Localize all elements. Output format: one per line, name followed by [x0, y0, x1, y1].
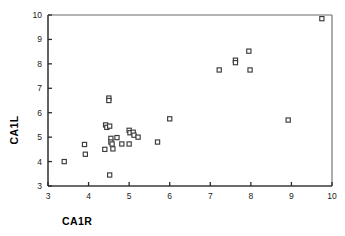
- data-point-marker: [136, 135, 140, 139]
- data-point-marker: [115, 136, 119, 140]
- data-point-series: [62, 17, 324, 178]
- data-point-marker: [233, 61, 237, 65]
- data-point-marker: [247, 49, 251, 53]
- data-point-marker: [108, 173, 112, 177]
- data-point-marker: [110, 142, 114, 146]
- y-tick-label: 4: [37, 157, 42, 167]
- data-point-marker: [103, 147, 107, 151]
- y-tick-label: 5: [37, 132, 42, 142]
- y-axis-title: CA1L: [8, 115, 20, 144]
- y-tick-label: 10: [33, 10, 43, 20]
- y-tick-label: 9: [37, 34, 42, 44]
- x-tick-label: 9: [289, 191, 294, 201]
- data-point-marker: [168, 117, 172, 121]
- data-point-marker: [108, 124, 112, 128]
- data-point-marker: [120, 142, 124, 146]
- x-axis-tick-labels: 345678910: [46, 191, 337, 201]
- y-tick-label: 3: [37, 181, 42, 191]
- data-point-marker: [320, 17, 324, 21]
- x-tick-label: 8: [248, 191, 253, 201]
- x-tick-label: 4: [86, 191, 91, 201]
- data-point-marker: [62, 159, 66, 163]
- x-axis-title: CA1R: [62, 215, 92, 227]
- data-point-marker: [111, 147, 115, 151]
- x-tick-label: 6: [167, 191, 172, 201]
- y-tick-label: 8: [37, 59, 42, 69]
- data-point-marker: [155, 140, 159, 144]
- y-axis-tick-labels: 345678910: [33, 10, 43, 191]
- data-point-marker: [286, 118, 290, 122]
- y-tick-label: 7: [37, 83, 42, 93]
- y-tick-label: 6: [37, 108, 42, 118]
- data-point-marker: [248, 68, 252, 72]
- x-tick-label: 3: [46, 191, 51, 201]
- data-point-marker: [217, 68, 221, 72]
- plot-canvas: 345678910 345678910 CA1L CA1R: [0, 0, 345, 236]
- data-point-marker: [82, 142, 86, 146]
- data-point-marker: [107, 98, 111, 102]
- scatter-plot-figure: 345678910 345678910 CA1L CA1R: [0, 0, 345, 236]
- x-tick-label: 5: [127, 191, 132, 201]
- x-tick-label: 10: [327, 191, 337, 201]
- data-point-marker: [83, 152, 87, 156]
- data-point-marker: [127, 142, 131, 146]
- plot-frame: [48, 15, 332, 186]
- x-tick-label: 7: [208, 191, 213, 201]
- axis-lines: [48, 15, 332, 186]
